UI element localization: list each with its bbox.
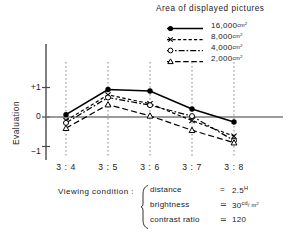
- data-point-3-2: [147, 113, 153, 118]
- evaluation-line-chart-figure: Area of displayed pictures 16,000cm2: [0, 0, 290, 233]
- legend-title: Area of displayed pictures: [156, 4, 288, 13]
- condition-value-brightness: 30cd/ m2: [232, 200, 259, 210]
- condition-value-contrast-ratio: 120: [232, 215, 246, 224]
- data-point-3-0: [63, 125, 69, 130]
- data-point-0-2: [147, 88, 152, 93]
- conditions-brace: [140, 184, 149, 230]
- x-tick-label-3-4: 3 : 4: [46, 162, 86, 172]
- conditions-list: distance = 2.5H brightness ≃ 30cd/ m2 co…: [150, 183, 282, 228]
- data-point-0-3: [189, 106, 194, 111]
- data-point-0-0: [63, 112, 68, 117]
- condition-row-brightness: brightness ≃ 30cd/ m2: [150, 198, 282, 213]
- condition-relation-distance: =: [220, 185, 225, 194]
- chart-canvas: [0, 26, 290, 176]
- condition-relation-brightness: ≃: [220, 200, 227, 209]
- plot-area: Evaluation +1 0 −1 3 : 4 3 : 5 3 : 6 3 :…: [0, 26, 290, 176]
- condition-name-brightness: brightness: [150, 200, 189, 209]
- data-point-0-1: [105, 87, 110, 92]
- condition-row-contrast-ratio: contrast ratio ≃ 120: [150, 213, 282, 228]
- condition-value-distance: 2.5H: [232, 185, 248, 195]
- x-tick-label-3-6: 3 : 6: [130, 162, 170, 172]
- y-tick-label-plus1: +1: [3, 82, 41, 92]
- viewing-conditions-label: Viewing condition :: [58, 187, 134, 196]
- data-point-3-3: [189, 127, 195, 132]
- condition-name-contrast-ratio: contrast ratio: [150, 215, 200, 224]
- data-point-0-4: [231, 119, 236, 124]
- y-tick-label-zero: 0: [3, 111, 41, 121]
- data-point-3-1: [105, 102, 111, 107]
- condition-relation-contrast-ratio: ≃: [220, 215, 227, 224]
- condition-row-distance: distance = 2.5H: [150, 183, 282, 198]
- y-tick-label-minus1: −1: [3, 146, 41, 156]
- x-tick-label-3-5: 3 : 5: [88, 162, 128, 172]
- data-point-2-2: [148, 103, 153, 108]
- viewing-conditions-block: Viewing condition : distance = 2.5H brig…: [0, 183, 290, 233]
- condition-name-distance: distance: [150, 185, 182, 194]
- x-tick-label-3-7: 3 : 7: [172, 162, 212, 172]
- data-point-2-3: [190, 114, 195, 119]
- x-tick-label-3-8: 3 : 8: [214, 162, 254, 172]
- data-point-2-1: [106, 95, 111, 100]
